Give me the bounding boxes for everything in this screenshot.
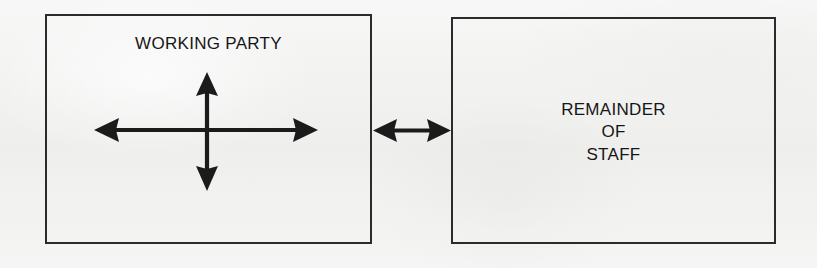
- box-remainder-of-staff-label: REMAINDER OF STAFF: [451, 99, 776, 166]
- diagram-canvas: WORKING PARTY REMAINDER OF STAFF: [0, 0, 817, 268]
- box-working-party-label: WORKING PARTY: [45, 33, 372, 55]
- bidirectional-arrow-icon: [366, 112, 458, 149]
- four-way-arrow-icon: [85, 65, 327, 197]
